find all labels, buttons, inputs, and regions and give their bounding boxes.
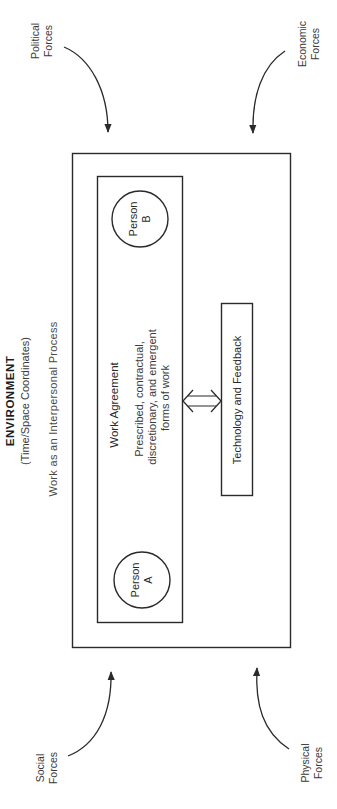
work-agreement-title: Work Agreement	[108, 362, 121, 447]
person-a-letter: A	[142, 576, 155, 583]
environment-subtitle: (Time/Space Coordinates)	[19, 337, 32, 465]
social-forces-line-1: Social	[34, 754, 46, 783]
economic-forces-line-1: Economic	[296, 21, 308, 67]
economic-forces-line-2: Forces	[309, 28, 321, 60]
political-forces-arrow	[64, 47, 108, 132]
work-agreement-desc-line-3: forms of work	[159, 365, 172, 431]
double-arrow-icon	[183, 390, 221, 412]
work-agreement-desc-line-1: Prescribed, contractual,	[133, 341, 146, 457]
work-agreement-desc-line-2: discretionary, and emergent	[146, 329, 159, 465]
technology-feedback-label: Technology and Feedback	[231, 336, 244, 464]
person-b-letter: B	[140, 215, 153, 222]
physical-forces-arrow	[257, 668, 289, 749]
physical-forces-line-1: Physical	[299, 743, 311, 782]
person-b-label: Person	[127, 202, 140, 237]
political-forces-line-1: Political	[29, 23, 41, 59]
social-forces-line-2: Forces	[47, 752, 59, 784]
physical-forces-line-2: Forces	[312, 747, 324, 779]
person-a-label: Person	[129, 563, 142, 598]
social-forces-arrow	[68, 672, 111, 756]
political-forces-line-2: Forces	[42, 25, 54, 57]
economic-forces-arrow	[253, 51, 285, 133]
environment-title: ENVIRONMENT	[4, 356, 17, 446]
process-label: Work as an Interpersonal Process	[47, 321, 60, 496]
environment-boundary	[73, 154, 291, 648]
